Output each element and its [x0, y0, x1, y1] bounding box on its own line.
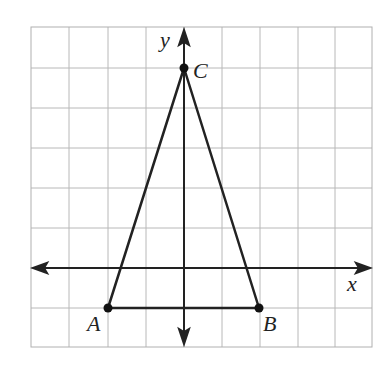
y-axis-down-arrow-icon — [179, 329, 189, 344]
y-axis-up-arrow-icon — [179, 30, 189, 45]
vertex-a-label: A — [85, 311, 101, 336]
coordinate-plane-diagram: A B C x y — [0, 0, 390, 365]
vertex-c-label: C — [193, 58, 208, 83]
x-axis-label: x — [346, 271, 357, 296]
x-axis-left-arrow-icon — [33, 263, 47, 273]
x-axis-right-arrow-icon — [356, 263, 370, 273]
vertex-b-label: B — [263, 311, 276, 336]
vertex-a-point — [104, 304, 113, 313]
y-axis-label: y — [158, 27, 170, 52]
vertex-c-point — [180, 64, 189, 73]
